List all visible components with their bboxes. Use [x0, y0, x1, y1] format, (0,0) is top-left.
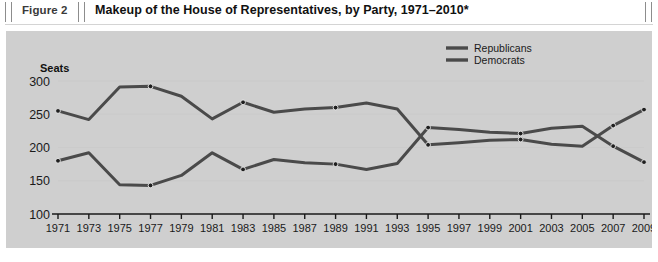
double-rule-right-icon — [645, 2, 652, 22]
chart-legend: RepublicansDemocrats — [446, 42, 532, 66]
y-tick-label: 150 — [29, 174, 50, 188]
x-axis: 1971197319751977197919811983198519871989… — [46, 214, 652, 234]
data-point-marker — [333, 105, 338, 110]
x-tick-label: 1977 — [138, 222, 162, 234]
x-tick-label: 1973 — [77, 222, 101, 234]
line-chart: Seats 100150200250300 197119731975197719… — [6, 31, 652, 248]
y-axis-title: Seats — [40, 62, 69, 74]
data-point-marker — [241, 167, 246, 172]
x-tick-label: 1981 — [200, 222, 224, 234]
x-tick-label: 1991 — [354, 222, 378, 234]
y-tick-label: 300 — [29, 75, 50, 89]
x-tick-label: 1987 — [292, 222, 316, 234]
data-point-marker — [611, 123, 616, 128]
figure-number-label: Figure 2 — [22, 4, 68, 16]
x-tick-label: 2003 — [539, 222, 563, 234]
legend-label: Republicans — [474, 42, 532, 54]
series-line-democrats — [58, 86, 644, 146]
figure-title: Makeup of the House of Representatives, … — [95, 3, 469, 17]
x-tick-label: 1993 — [385, 222, 409, 234]
x-tick-label: 1985 — [262, 222, 286, 234]
y-tick-label: 100 — [29, 208, 50, 222]
data-point-marker — [426, 125, 431, 130]
data-point-marker — [241, 100, 246, 105]
data-point-marker — [518, 131, 523, 136]
x-tick-label: 2009 — [632, 222, 652, 234]
x-tick-label: 1983 — [231, 222, 255, 234]
y-axis-ticks: 100150200250300 — [29, 75, 644, 222]
chart-panel: Seats 100150200250300 197119731975197719… — [6, 31, 652, 248]
x-tick-label: 1997 — [447, 222, 471, 234]
series-line-republicans — [58, 126, 644, 185]
data-point-marker — [642, 160, 647, 165]
y-tick-label: 250 — [29, 108, 50, 122]
legend-label: Democrats — [474, 54, 525, 66]
x-tick-label: 1999 — [478, 222, 502, 234]
x-tick-label: 1971 — [46, 222, 70, 234]
x-tick-label: 1979 — [169, 222, 193, 234]
data-point-marker — [518, 137, 523, 142]
double-rule-left-icon — [5, 2, 12, 22]
x-tick-label: 1989 — [323, 222, 347, 234]
data-point-marker — [56, 109, 61, 114]
data-point-marker — [611, 144, 616, 149]
double-rule-middle-icon — [78, 2, 85, 22]
data-point-marker — [333, 162, 338, 167]
x-tick-label: 1995 — [416, 222, 440, 234]
figure-header: Figure 2 Makeup of the House of Represen… — [0, 0, 658, 25]
x-tick-label: 1975 — [107, 222, 131, 234]
x-tick-label: 2005 — [570, 222, 594, 234]
y-tick-label: 200 — [29, 141, 50, 155]
data-point-marker — [148, 183, 153, 188]
x-tick-label: 2001 — [508, 222, 532, 234]
data-point-marker — [56, 158, 61, 163]
data-point-marker — [426, 142, 431, 147]
header-divider — [5, 24, 653, 25]
x-tick-label: 2007 — [601, 222, 625, 234]
figure-container: Figure 2 Makeup of the House of Represen… — [0, 0, 658, 262]
data-point-marker — [148, 84, 153, 89]
series-layer — [56, 84, 647, 188]
data-point-marker — [642, 107, 647, 112]
